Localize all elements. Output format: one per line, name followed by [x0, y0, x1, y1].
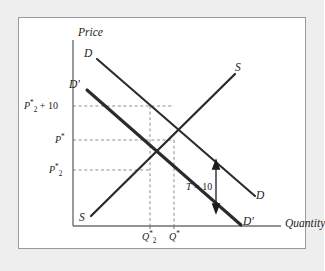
curve-label-supply-bottom: S — [79, 212, 85, 224]
x-tick-sub: 2 — [153, 237, 157, 245]
tax-equals: = — [192, 181, 203, 192]
tax-wedge-label: T = 10 — [186, 182, 212, 192]
y-tick-suffix: + 10 — [37, 100, 58, 111]
curve-supply — [91, 74, 235, 216]
axis-lines — [73, 40, 281, 226]
y-axis-title: Price — [78, 27, 103, 39]
y-tick-sub: 2 — [59, 170, 63, 178]
curve-label-demand-top: D — [84, 48, 92, 60]
curve-label-demand-shifted-end: D' — [243, 216, 254, 228]
y-tick-star: * — [61, 133, 65, 141]
y-tick-label-p2-star: P*2 — [49, 164, 62, 179]
x-tick-star: * — [176, 230, 180, 238]
y-tick-label-p-star: P* — [55, 134, 65, 145]
y-tick-label-p2-plus-10: P*2 + 10 — [24, 100, 58, 115]
tax-wedge-arrow — [213, 160, 220, 213]
tax-amount: 10 — [202, 181, 212, 192]
x-tick-label-q2-star: Q*2 — [142, 231, 156, 246]
curve-label-demand-end: D — [256, 190, 264, 202]
curve-label-supply-top: S — [235, 62, 241, 74]
curve-label-demand-shifted-top: D' — [69, 79, 80, 91]
x-axis-title: Quantity — [285, 218, 325, 230]
tax-arrow-head-down — [213, 204, 220, 213]
x-tick-label-q-star: Q* — [169, 231, 180, 242]
curve-demand — [97, 59, 255, 196]
figure-frame: Price Quantity P*2 + 10 P* P*2 Q*2 Q* D … — [18, 17, 306, 249]
